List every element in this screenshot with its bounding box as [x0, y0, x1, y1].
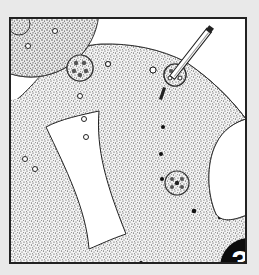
hole-cluster-bottom	[165, 171, 189, 195]
step-number: 3	[225, 246, 247, 264]
stippled-drawing	[11, 19, 247, 264]
illustration-panel: 3	[9, 17, 247, 264]
